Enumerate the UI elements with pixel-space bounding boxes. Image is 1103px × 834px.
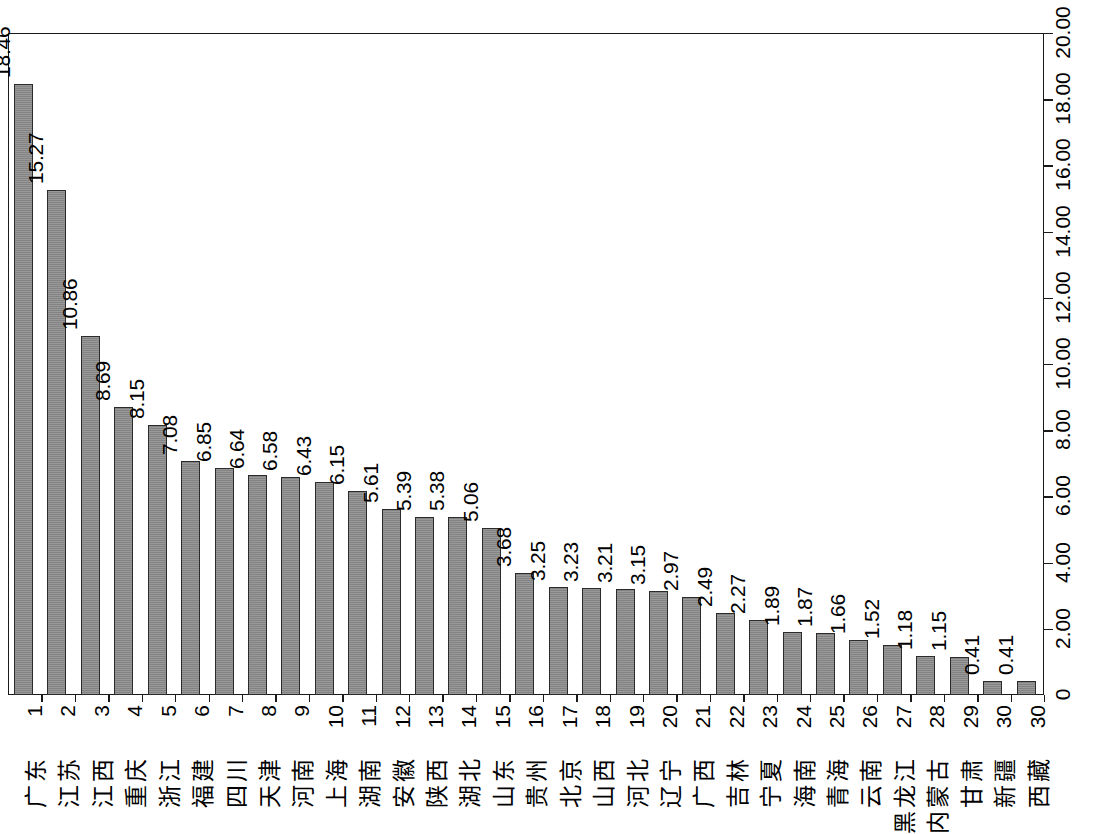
bar-value-label: 6.43 xyxy=(293,436,314,476)
bar xyxy=(515,573,534,695)
bar-group: 15.27 xyxy=(41,33,74,695)
bar-value-label: 6.64 xyxy=(226,429,247,469)
category-label-group: 13陕西 xyxy=(409,700,442,822)
bar-group: 5.06 xyxy=(476,33,509,695)
value-tick-label: 14.00 xyxy=(1052,205,1073,258)
bar-value-label: 3.25 xyxy=(527,541,548,581)
category-label-group: 5浙江 xyxy=(142,700,175,822)
category-label-group: 25青海 xyxy=(810,700,843,822)
value-tick-label: 20.00 xyxy=(1052,6,1073,59)
bar-value-label: 3.68 xyxy=(493,527,514,567)
bar xyxy=(582,588,601,695)
category-label-group: 17北京 xyxy=(543,700,576,822)
category-label-group: 28内蒙古 xyxy=(910,700,943,822)
category-axis-labels: 1广东2江苏3江西4重庆5浙江6福建7四川8天津9河南10上海11湖南12安徽1… xyxy=(8,700,1044,822)
bar-value-label: 5.39 xyxy=(393,471,414,511)
bar-value-label: 1.66 xyxy=(827,594,848,634)
category-label-group: 29甘肃 xyxy=(944,700,977,822)
category-label-group: 24海南 xyxy=(777,700,810,822)
bar xyxy=(1017,681,1036,695)
bar-value-label: 8.15 xyxy=(126,379,147,419)
category-label-group: 20辽宁 xyxy=(643,700,676,822)
category-label-group: 11湖南 xyxy=(342,700,375,822)
bar-value-label: 10.86 xyxy=(59,278,80,330)
bar-group: 6.64 xyxy=(242,33,275,695)
value-tick-label: 6.00 xyxy=(1052,475,1073,516)
value-tick-label: 2.00 xyxy=(1052,608,1073,649)
bar-group: 6.58 xyxy=(275,33,308,695)
bar xyxy=(348,491,367,695)
category-label-group: 23宁夏 xyxy=(743,700,776,822)
value-tick-label: 0 xyxy=(1052,689,1073,701)
bar xyxy=(382,509,401,695)
bar-group: 5.39 xyxy=(409,33,442,695)
bar xyxy=(47,190,66,695)
category-label-group: 14湖北 xyxy=(442,700,475,822)
bar-group: 3.15 xyxy=(643,33,676,695)
category-label-group: 6福建 xyxy=(175,700,208,822)
category-label-group: 10上海 xyxy=(309,700,342,822)
category-tick xyxy=(1044,695,1045,702)
category-label-group: 2江苏 xyxy=(41,700,74,822)
bar-value-label: 7.08 xyxy=(159,415,180,455)
bar xyxy=(448,517,467,695)
category-label-group: 22吉林 xyxy=(710,700,743,822)
category-name-label: 西藏 xyxy=(1027,756,1051,808)
bar-group: 8.69 xyxy=(108,33,141,695)
category-rank-label: 30 xyxy=(1027,705,1048,728)
bar-value-label: 3.21 xyxy=(594,543,615,583)
bar xyxy=(315,482,334,695)
category-label-group: 9河南 xyxy=(275,700,308,822)
bar-group: 8.15 xyxy=(142,33,175,695)
category-label-group: 15山东 xyxy=(476,700,509,822)
bar xyxy=(415,517,434,695)
bar xyxy=(849,640,868,695)
category-label-group: 30西藏 xyxy=(1011,700,1044,822)
bar-value-label: 1.87 xyxy=(794,587,815,627)
bar-value-label: 1.18 xyxy=(894,610,915,650)
bar-value-label: 18.46 xyxy=(0,26,13,78)
bar-group: 0.41 xyxy=(977,33,1010,695)
bar-value-label: 6.58 xyxy=(259,431,280,471)
bar-group: 3.68 xyxy=(509,33,542,695)
bar-value-label: 5.61 xyxy=(360,463,381,503)
category-label-group: 12安徽 xyxy=(376,700,409,822)
bar xyxy=(248,475,267,695)
bar-value-label: 0.41 xyxy=(995,635,1016,675)
bar-value-label: 15.27 xyxy=(25,132,46,184)
bar xyxy=(783,632,802,695)
bar-value-label: 1.52 xyxy=(861,599,882,639)
bar-group: 1.52 xyxy=(877,33,910,695)
bars-layer: 18.4615.2710.868.698.157.086.856.646.586… xyxy=(8,33,1044,695)
value-tick-label: 4.00 xyxy=(1052,542,1073,583)
category-label-group: 30新疆 xyxy=(977,700,1010,822)
bar-value-label: 2.27 xyxy=(727,574,748,614)
bar-group: 7.08 xyxy=(175,33,208,695)
bar-group: 1.18 xyxy=(910,33,943,695)
bar xyxy=(215,468,234,695)
bar xyxy=(883,645,902,695)
category-label-group: 3江西 xyxy=(75,700,108,822)
bar-group: 5.61 xyxy=(376,33,409,695)
bar xyxy=(983,681,1002,695)
bar-value-label: 6.15 xyxy=(326,445,347,485)
category-label-group: 27黑龙江 xyxy=(877,700,910,822)
bar-value-label: 3.23 xyxy=(560,542,581,582)
category-label-group: 21广西 xyxy=(676,700,709,822)
bar-group: 3.21 xyxy=(610,33,643,695)
value-tick-label: 8.00 xyxy=(1052,409,1073,450)
bar-group: 0.41 xyxy=(1011,33,1044,695)
bar-value-label: 1.89 xyxy=(761,586,782,626)
category-label-group: 16贵州 xyxy=(509,700,542,822)
bar xyxy=(148,425,167,695)
value-axis: 02.004.006.008.0010.0012.0014.0016.0018.… xyxy=(1044,33,1103,695)
bar xyxy=(281,477,300,695)
category-label-group: 26云南 xyxy=(843,700,876,822)
bar-group: 6.85 xyxy=(209,33,242,695)
value-tick-label: 12.00 xyxy=(1052,271,1073,324)
bar-value-label: 2.97 xyxy=(660,551,681,591)
bar xyxy=(916,656,935,695)
bar xyxy=(682,597,701,695)
bar-value-label: 8.69 xyxy=(92,361,113,401)
